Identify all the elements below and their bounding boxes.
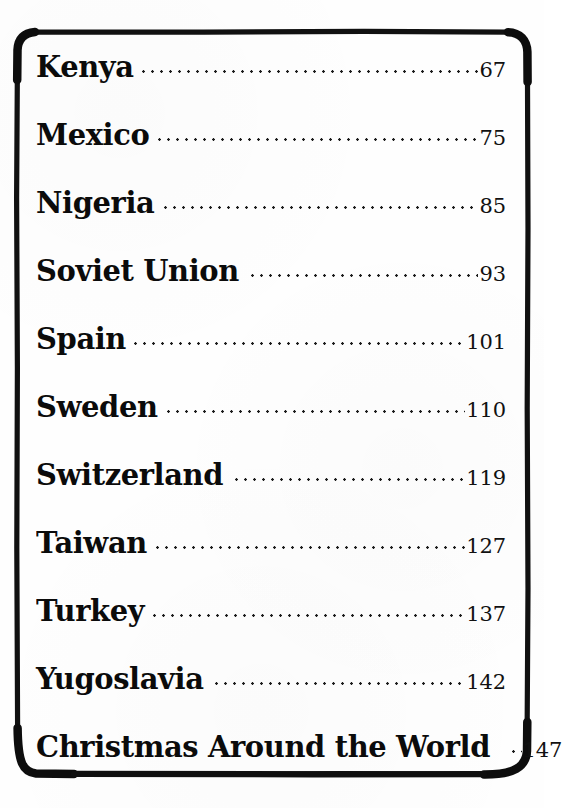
toc-entry-page-number: 85 — [478, 194, 506, 218]
toc-entry-page-number: 75 — [478, 126, 506, 150]
toc-entry-page-number: 110 — [465, 398, 506, 422]
toc-entry[interactable]: Taiwan127 — [36, 526, 506, 568]
toc-entry[interactable]: Spain101 — [36, 322, 506, 364]
toc-entry[interactable]: Christmas Around the World147 — [36, 730, 506, 772]
toc-entry-title: Spain — [36, 322, 131, 356]
toc-entry-title: Turkey — [36, 594, 149, 628]
toc-entry-title: Christmas Around the World — [36, 730, 495, 764]
toc-entry-title: Yugoslavia — [36, 662, 208, 696]
toc-dot-leader — [158, 123, 478, 145]
toc-entry-page-number: 101 — [465, 330, 506, 354]
toc-entry-title: Soviet Union — [36, 254, 244, 288]
toc-dot-leader — [142, 55, 478, 77]
toc-entry-page-number: 67 — [478, 58, 506, 82]
toc-dot-leader — [251, 259, 478, 281]
toc-entry-title: Switzerland — [36, 458, 228, 492]
toc-dot-leader — [164, 191, 479, 213]
toc-entry[interactable]: Nigeria85 — [36, 186, 506, 228]
toc-entry[interactable]: Soviet Union93 — [36, 254, 506, 296]
toc-dot-leader — [153, 599, 465, 621]
toc-entry-page-number: 147 — [522, 738, 562, 762]
toc-dot-leader — [215, 667, 466, 689]
toc-entry[interactable]: Turkey137 — [36, 594, 506, 636]
table-of-contents-list: Kenya67Mexico75Nigeria85Soviet Union93Sp… — [36, 28, 506, 791]
toc-entry-page-number: 93 — [478, 262, 506, 286]
toc-entry-page-number: 142 — [465, 670, 506, 694]
toc-entry[interactable]: Yugoslavia142 — [36, 662, 506, 704]
toc-entry[interactable]: Switzerland119 — [36, 458, 506, 500]
toc-entry-title: Taiwan — [36, 526, 152, 560]
toc-dot-leader — [156, 531, 465, 553]
toc-entry-title: Kenya — [36, 50, 138, 84]
toc-entry-page-number: 137 — [465, 602, 506, 626]
toc-dot-leader — [167, 395, 465, 417]
toc-entry-title: Nigeria — [36, 186, 159, 220]
toc-entry-page-number: 119 — [465, 466, 506, 490]
toc-entry[interactable]: Sweden110 — [36, 390, 506, 432]
toc-entry[interactable]: Kenya67 — [36, 50, 506, 92]
toc-entry-title: Mexico — [36, 118, 154, 152]
toc-entry[interactable]: Mexico75 — [36, 118, 506, 160]
toc-entry-page-number: 127 — [465, 534, 506, 558]
toc-dot-leader — [134, 327, 465, 349]
toc-entry-title: Sweden — [36, 390, 162, 424]
toc-dot-leader — [235, 463, 465, 485]
toc-dot-leader — [512, 735, 522, 757]
